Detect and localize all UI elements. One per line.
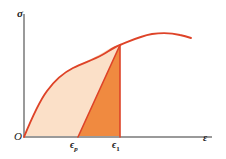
stress-strain-figure: σ ε O ϵp ϵ1 xyxy=(0,0,226,159)
tick-eps-1-subscript: 1 xyxy=(116,145,120,153)
tick-label-eps-p: ϵp xyxy=(70,140,78,153)
origin-label: O xyxy=(14,131,22,142)
tick-label-eps-1: ϵ1 xyxy=(112,140,120,153)
y-axis-label: σ xyxy=(17,8,23,19)
tick-eps-p-subscript: p xyxy=(74,145,78,153)
plot-canvas xyxy=(0,0,226,159)
x-axis-label: ε xyxy=(203,133,207,143)
